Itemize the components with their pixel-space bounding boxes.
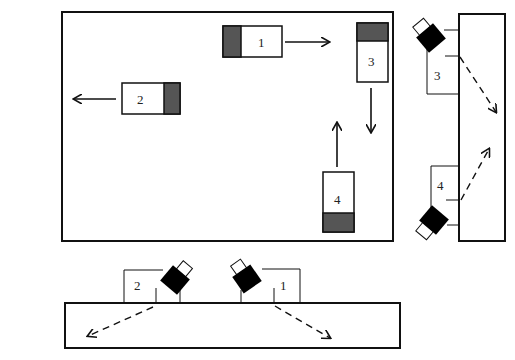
vehicle-3: 3 — [357, 23, 388, 132]
vehicle-3-label: 3 — [368, 54, 375, 69]
mount-4: 4 — [413, 149, 489, 242]
lamp-1-icon — [227, 256, 262, 293]
vehicle-2-shade — [164, 83, 180, 114]
vehicle-4: 4 — [323, 123, 354, 232]
bottom-panel — [65, 303, 400, 348]
mount-1: 1 — [227, 256, 330, 338]
mount-3: 3 — [410, 16, 496, 112]
vehicle-1-label: 1 — [258, 35, 265, 50]
vehicle-2: 2 — [74, 83, 180, 114]
beam-4-icon — [461, 149, 489, 200]
mount-1-label: 1 — [280, 278, 287, 293]
mount-2: 2 — [88, 258, 196, 336]
diagram-canvas: 1 2 3 4 3 — [0, 0, 515, 360]
lamp-2-icon — [160, 258, 196, 295]
beam-2-icon — [88, 307, 153, 336]
beam-1-icon — [275, 306, 330, 338]
mount-4-label: 4 — [437, 178, 444, 193]
vehicle-1: 1 — [223, 26, 329, 57]
mount-2-label: 2 — [134, 278, 141, 293]
vehicle-4-label: 4 — [334, 192, 341, 207]
vehicle-3-shade — [357, 23, 388, 41]
vehicle-4-shade — [323, 213, 354, 232]
beam-3-icon — [460, 57, 496, 112]
lamp-4-icon — [413, 205, 449, 242]
vehicle-1-shade — [223, 26, 241, 57]
vehicle-2-label: 2 — [137, 92, 144, 107]
right-panel — [459, 14, 505, 241]
mount-3-label: 3 — [434, 68, 441, 83]
lamp-3-icon — [410, 16, 446, 53]
